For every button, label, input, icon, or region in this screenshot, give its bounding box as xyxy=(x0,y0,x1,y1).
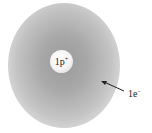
arrow-icon xyxy=(0,0,152,133)
electron-label: 1e− xyxy=(128,88,141,99)
